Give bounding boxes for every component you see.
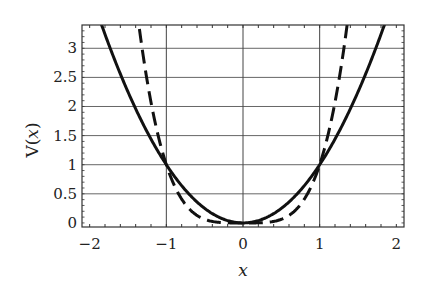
x-tick-label: 0	[238, 235, 248, 253]
y-tick-label: 0	[67, 214, 77, 232]
y-tick-label: 1.5	[53, 127, 77, 145]
y-tick-label: 3	[67, 39, 77, 57]
x-tick-label: −1	[155, 235, 177, 253]
y-tick-label: 0.5	[53, 185, 77, 203]
chart: −2−1012 00.511.522.53 x V(x)	[0, 0, 431, 294]
x-tick-label: 1	[315, 235, 325, 253]
x-tick-label: 2	[392, 235, 402, 253]
y-tick-labels: 00.511.522.53	[53, 39, 77, 232]
gridlines	[82, 25, 404, 227]
x-tick-labels: −2−1012	[79, 235, 402, 253]
y-tick-label: 1	[67, 156, 77, 174]
y-tick-label: 2.5	[53, 68, 77, 86]
x-axis-label: x	[238, 260, 248, 280]
y-axis-label: V(x)	[22, 122, 42, 158]
y-tick-label: 2	[67, 97, 77, 115]
x-tick-label: −2	[79, 235, 101, 253]
